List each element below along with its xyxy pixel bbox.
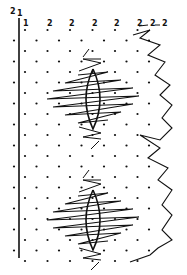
pin-dot bbox=[35, 207, 37, 209]
pin-dot bbox=[13, 228, 15, 230]
pin-dot bbox=[58, 81, 60, 83]
pin-dot bbox=[91, 50, 93, 52]
pin-dot bbox=[69, 92, 71, 94]
pin-dot bbox=[136, 71, 138, 73]
pin-dot bbox=[114, 239, 116, 241]
thread-path bbox=[79, 170, 101, 192]
pin-dot bbox=[103, 165, 105, 167]
pin-dot bbox=[91, 155, 93, 157]
pin-dot bbox=[69, 50, 71, 52]
pin-dot bbox=[103, 102, 105, 104]
pin-dot bbox=[69, 239, 71, 241]
pricking-canvas: 2112222222 bbox=[0, 0, 187, 275]
pin-dot bbox=[35, 102, 37, 104]
pin-dot bbox=[103, 207, 105, 209]
lace-pricking-diagram: 2112222222 bbox=[0, 0, 187, 275]
pin-dot bbox=[91, 176, 93, 178]
pin-dot bbox=[46, 50, 48, 52]
pin-dot bbox=[35, 165, 37, 167]
pin-dot bbox=[114, 176, 116, 178]
pair-label: 2 bbox=[150, 19, 156, 28]
pin-dot bbox=[125, 39, 127, 41]
pin-dot bbox=[13, 165, 15, 167]
thread-path bbox=[79, 49, 101, 71]
pin-dot bbox=[46, 29, 48, 31]
pin-dot bbox=[24, 134, 26, 136]
pin-dot bbox=[13, 144, 15, 146]
pin-dot bbox=[136, 50, 138, 52]
pin-dot bbox=[125, 81, 127, 83]
pin-dot bbox=[13, 186, 15, 188]
pin-dot bbox=[13, 249, 15, 251]
pair-label: 1 bbox=[23, 19, 29, 28]
pin-dot bbox=[24, 50, 26, 52]
pin-dot bbox=[24, 113, 26, 115]
pin-dot bbox=[136, 197, 138, 199]
pin-dot bbox=[35, 39, 37, 41]
pin-dot bbox=[103, 123, 105, 125]
pin-dot bbox=[80, 123, 82, 125]
pin-dot bbox=[148, 60, 150, 62]
pin-dot bbox=[148, 123, 150, 125]
pin-dot bbox=[24, 260, 26, 262]
pin-dot bbox=[103, 186, 105, 188]
pin-dot bbox=[46, 113, 48, 115]
thread-path bbox=[130, 30, 172, 262]
pin-dot bbox=[80, 39, 82, 41]
pair-label: 2 bbox=[92, 19, 98, 28]
pin-dot bbox=[148, 228, 150, 230]
pin-dot bbox=[148, 144, 150, 146]
pin-dot bbox=[136, 29, 138, 31]
pin-dot bbox=[58, 186, 60, 188]
thread-path bbox=[47, 193, 139, 244]
pin-dot bbox=[136, 176, 138, 178]
pair-label: 2 bbox=[162, 19, 168, 28]
pin-dot bbox=[46, 197, 48, 199]
pin-dot bbox=[114, 92, 116, 94]
thread-lines bbox=[47, 25, 172, 270]
pin-dot bbox=[24, 218, 26, 220]
pin-dot bbox=[35, 249, 37, 251]
pin-dot bbox=[24, 71, 26, 73]
pin-dot bbox=[35, 123, 37, 125]
pin-dot bbox=[91, 260, 93, 262]
pin-dot bbox=[125, 165, 127, 167]
pin-dot bbox=[24, 92, 26, 94]
pin-dot bbox=[69, 260, 71, 262]
pin-dot bbox=[114, 260, 116, 262]
pin-dot bbox=[13, 123, 15, 125]
pin-dot bbox=[69, 155, 71, 157]
pin-dot bbox=[69, 197, 71, 199]
pin-dot bbox=[148, 186, 150, 188]
pin-dot bbox=[69, 176, 71, 178]
pin-dot bbox=[114, 197, 116, 199]
pin-dot bbox=[136, 113, 138, 115]
pin-dot bbox=[125, 228, 127, 230]
pin-dot bbox=[35, 228, 37, 230]
pair-label: 1 bbox=[17, 9, 23, 18]
pin-dot bbox=[58, 249, 60, 251]
pin-dot bbox=[24, 29, 26, 31]
pin-dot bbox=[69, 29, 71, 31]
pin-dot bbox=[13, 81, 15, 83]
pin-dot bbox=[69, 71, 71, 73]
pin-dot bbox=[125, 123, 127, 125]
pin-dot bbox=[58, 228, 60, 230]
pin-dot bbox=[136, 155, 138, 157]
pin-dot bbox=[24, 155, 26, 157]
pin-dot bbox=[103, 39, 105, 41]
pin-dot bbox=[69, 134, 71, 136]
pin-dot bbox=[58, 144, 60, 146]
pin-dot bbox=[80, 249, 82, 251]
thread-path bbox=[47, 72, 139, 123]
pin-dot bbox=[46, 92, 48, 94]
pin-dot bbox=[24, 197, 26, 199]
pin-dot bbox=[80, 165, 82, 167]
pin-dot bbox=[114, 50, 116, 52]
pin-dot bbox=[35, 186, 37, 188]
pin-dot bbox=[35, 144, 37, 146]
pin-dot bbox=[125, 249, 127, 251]
pin-dot bbox=[148, 207, 150, 209]
pair-label: 2 bbox=[69, 19, 75, 28]
pin-dot bbox=[80, 228, 82, 230]
